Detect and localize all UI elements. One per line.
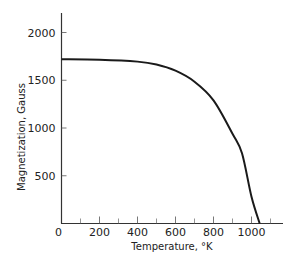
y-axis: 500100015002000 bbox=[28, 13, 67, 224]
y-tick-label: 500 bbox=[35, 170, 56, 183]
x-tick-label: 800 bbox=[203, 226, 224, 239]
x-tick-label: 600 bbox=[165, 226, 186, 239]
x-tick-label: 0 bbox=[55, 226, 62, 239]
x-axis-label: Temperature, °K bbox=[130, 241, 213, 252]
y-tick-label: 1000 bbox=[28, 122, 56, 135]
magnetization-curve bbox=[62, 59, 260, 223]
x-axis: 02004006008001000 bbox=[55, 217, 283, 240]
x-tick-label: 200 bbox=[89, 226, 110, 239]
y-tick-label: 2000 bbox=[28, 27, 56, 40]
y-axis-label: Magnetization, Gauss bbox=[16, 83, 27, 191]
y-tick-label: 1500 bbox=[28, 74, 56, 87]
x-tick-label: 400 bbox=[127, 226, 148, 239]
x-tick-label: 1000 bbox=[238, 226, 266, 239]
chart: 500100015002000 02004006008001000 Magnet… bbox=[0, 0, 297, 264]
